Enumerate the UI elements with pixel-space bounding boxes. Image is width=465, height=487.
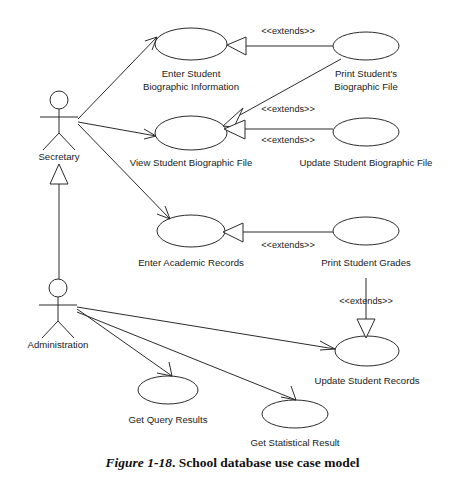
actor-administration-leg-right [58,321,74,338]
use-case-enter-academic-records[interactable]: Enter Academic Records [138,215,244,268]
use-case-update-student-biographic-file[interactable]: Update Student Biographic File [300,118,433,168]
actor-secretary-leg-right [59,133,75,150]
actor-administration-label: Administration [28,339,89,350]
association-line [78,37,157,119]
extends-label: <<extends>> [261,26,315,36]
association-line [77,309,172,376]
extends-print-student-bio-to-enter-student-bio[interactable]: <<extends>> [227,26,333,55]
use-case-label-line1: Get Query Results [129,414,208,425]
figure-page: Secretary Administration Enter Student B… [0,0,465,487]
actor-secretary-head [50,91,68,109]
association-administration-to-update-student-records[interactable] [77,307,335,350]
use-case-label-line1: Print Student's [335,68,397,79]
extends-label: <<extends>> [339,296,393,306]
actor-secretary[interactable]: Secretary [38,91,79,162]
use-case-label-line1: Get Statistical Result [250,437,339,448]
association-secretary-to-enter-student-biographic-information[interactable] [78,37,157,119]
extends-arrowhead-triangle [227,37,246,55]
use-case-label-line1: Enter Student [162,68,221,79]
use-case-label-line1: Update Student Records [314,375,419,386]
actor-administration-leg-left [42,321,58,338]
use-case-get-statistical-result[interactable]: Get Statistical Result [250,400,339,448]
actor-secretary-label: Secretary [38,151,79,162]
use-case-enter-student-biographic-information[interactable]: Enter Student Biographic Information [143,28,239,92]
extends-print-student-grades-to-enter-academic-records[interactable]: <<extends>> [223,223,333,250]
extends-print-student-grades-to-update-student-records[interactable]: <<extends>> [339,278,393,338]
use-case-ellipse [262,400,328,428]
extends-label: <<extends>> [261,135,315,145]
use-case-label-line2: Biographic Information [143,81,239,92]
use-case-label-line1: View Student Biographic File [130,157,252,168]
association-arrowhead-lower [144,136,156,139]
use-case-ellipse [333,118,399,146]
extends-label: <<extends>> [261,104,315,114]
extends-label: <<extends>> [261,240,315,250]
extends-print-student-bio-to-view-student-bio[interactable]: <<extends>> [223,59,341,127]
generalization-arrowhead-triangle [50,164,68,184]
use-case-print-student-grades[interactable]: Print Student Grades [321,217,411,268]
use-case-ellipse [155,116,227,150]
use-case-ellipse [333,32,399,60]
use-case-update-student-records[interactable]: Update Student Records [314,336,419,386]
use-case-ellipse [155,28,227,60]
figure-number: Figure 1-18 [106,455,172,470]
figure-caption: Figure 1-18. School database use case mo… [0,455,465,471]
use-case-ellipse [157,215,225,247]
use-case-label-line1: Print Student Grades [321,257,411,268]
use-case-label-line2: Biographic File [334,81,397,92]
actor-administration-head [49,279,67,297]
use-case-ellipse [138,376,198,404]
generalization-administration-to-secretary[interactable] [50,164,68,279]
use-case-ellipse [333,217,399,245]
use-case-label-line1: Update Student Biographic File [300,157,433,168]
actor-administration[interactable]: Administration [28,279,89,350]
use-case-diagram: Secretary Administration Enter Student B… [0,0,465,487]
extends-arrowhead-triangle [357,319,375,338]
figure-caption-separator: . [172,455,175,470]
actor-secretary-leg-left [43,133,59,150]
use-case-get-query-results[interactable]: Get Query Results [129,376,208,425]
use-case-ellipse [335,336,399,366]
use-case-print-students-biographic-file[interactable]: Print Student's Biographic File [333,32,399,92]
use-case-label-line1: Enter Academic Records [138,257,244,268]
association-administration-to-get-query-results[interactable] [77,309,172,376]
extends-update-student-bio-to-view-student-bio[interactable]: <<extends>> [224,120,333,145]
association-arrowhead-lower [320,349,335,350]
extends-arrowhead-triangle [223,223,243,242]
figure-caption-title: School database use case model [179,455,360,470]
